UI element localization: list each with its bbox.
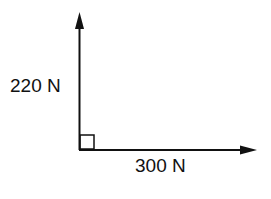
horizontal-vector-arrow — [79, 146, 257, 155]
right-angle-marker — [80, 135, 94, 149]
force-diagram: 220 N 300 N — [0, 0, 271, 199]
vertical-vector-arrow — [75, 12, 84, 150]
horizontal-force-label: 300 N — [135, 155, 186, 177]
vertical-force-label: 220 N — [10, 75, 61, 97]
